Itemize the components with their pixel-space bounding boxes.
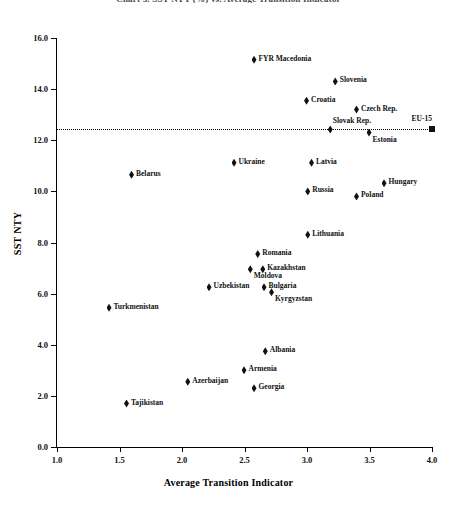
- diamond-marker-icon: [382, 179, 387, 187]
- data-point-label: Georgia: [259, 383, 285, 391]
- data-point-label: Estonia: [373, 136, 397, 144]
- data-point-label: Latvia: [316, 158, 337, 166]
- y-tick-mark: [51, 345, 57, 346]
- y-tick-label: 10.0: [0, 186, 48, 196]
- diamond-marker-icon: [129, 171, 134, 179]
- y-tick-label: 16.0: [0, 33, 48, 43]
- y-axis-title: SST NTY: [12, 184, 23, 284]
- diamond-marker-icon: [354, 192, 359, 200]
- y-tick-mark: [51, 243, 57, 244]
- y-tick-label: 2.0: [0, 391, 48, 401]
- data-point-label: Uzbekistan: [214, 282, 250, 290]
- x-axis-title: Average Transition Indicator: [0, 477, 457, 488]
- x-tick-mark: [370, 447, 371, 452]
- y-tick-mark: [51, 396, 57, 397]
- data-point-label: Czech Rep.: [361, 105, 397, 113]
- x-tick-label: 2.0: [162, 455, 202, 465]
- diamond-marker-icon: [242, 366, 247, 374]
- data-point-label: Slovak Rep.: [333, 117, 371, 125]
- data-point-label: Kyrgyzstan: [275, 295, 312, 303]
- diamond-marker-icon: [263, 347, 268, 355]
- diamond-marker-icon: [107, 304, 112, 312]
- x-tick-mark: [120, 447, 121, 452]
- diamond-marker-icon: [328, 126, 333, 134]
- x-tick-label: 3.5: [350, 455, 390, 465]
- square-marker-icon: [429, 126, 435, 132]
- x-tick-mark: [57, 447, 58, 452]
- y-tick-mark: [51, 294, 57, 295]
- x-tick-mark: [307, 447, 308, 452]
- diamond-marker-icon: [305, 187, 310, 195]
- y-tick-label: 0.0: [0, 442, 48, 452]
- data-point-label: Moldova: [254, 272, 282, 280]
- data-point-label: Russia: [312, 186, 333, 194]
- x-tick-label: 2.5: [225, 455, 265, 465]
- diamond-marker-icon: [262, 283, 267, 291]
- y-tick-label: 12.0: [0, 135, 48, 145]
- y-tick-label: 4.0: [0, 340, 48, 350]
- x-tick-mark: [432, 447, 433, 452]
- diamond-marker-icon: [309, 159, 314, 167]
- diamond-marker-icon: [252, 384, 257, 392]
- diamond-marker-icon: [367, 129, 372, 137]
- x-tick-label: 4.0: [412, 455, 452, 465]
- diamond-marker-icon: [354, 106, 359, 114]
- data-point-label: Albania: [270, 346, 295, 354]
- scatter-chart-figure: Chart 3. SST NTY (%) vs. Average Transit…: [0, 0, 457, 513]
- y-tick-mark: [51, 38, 57, 39]
- diamond-marker-icon: [248, 265, 253, 273]
- diamond-marker-icon: [232, 159, 237, 167]
- diamond-marker-icon: [124, 400, 129, 408]
- diamond-marker-icon: [185, 378, 190, 386]
- data-point-label: Poland: [361, 191, 384, 199]
- diamond-marker-icon: [252, 56, 257, 64]
- x-tick-label: 1.0: [37, 455, 77, 465]
- diamond-marker-icon: [207, 283, 212, 291]
- data-point-label: EU-15: [412, 115, 432, 123]
- y-tick-mark: [51, 89, 57, 90]
- x-tick-mark: [182, 447, 183, 452]
- data-point-label: FYR Macedonia: [259, 55, 312, 63]
- diamond-marker-icon: [305, 231, 310, 239]
- data-point-label: Bulgaria: [269, 282, 297, 290]
- data-point-label: Slovenia: [340, 76, 367, 84]
- data-point-label: Lithuania: [312, 230, 344, 238]
- y-tick-mark: [51, 140, 57, 141]
- data-point-label: Croatia: [311, 96, 335, 104]
- data-point-label: Belarus: [136, 170, 161, 178]
- chart-title: Chart 3. SST NTY (%) vs. Average Transit…: [0, 0, 457, 3]
- y-tick-label: 8.0: [0, 238, 48, 248]
- y-tick-label: 14.0: [0, 84, 48, 94]
- data-point-label: Romania: [262, 249, 291, 257]
- diamond-marker-icon: [255, 250, 260, 258]
- x-tick-label: 3.0: [287, 455, 327, 465]
- y-tick-mark: [51, 191, 57, 192]
- y-tick-label: 6.0: [0, 289, 48, 299]
- data-point-label: Turkmenistan: [114, 303, 159, 311]
- data-point-label: Hungary: [389, 178, 418, 186]
- x-tick-mark: [245, 447, 246, 452]
- diamond-marker-icon: [333, 77, 338, 85]
- data-point-label: Tajikistan: [131, 399, 163, 407]
- diamond-marker-icon: [304, 97, 309, 105]
- data-point-label: Armenia: [249, 365, 277, 373]
- eu15-reference-line: [57, 129, 432, 130]
- data-point-label: Azerbaijan: [192, 377, 228, 385]
- data-point-label: Ukraine: [239, 158, 265, 166]
- x-tick-label: 1.5: [100, 455, 140, 465]
